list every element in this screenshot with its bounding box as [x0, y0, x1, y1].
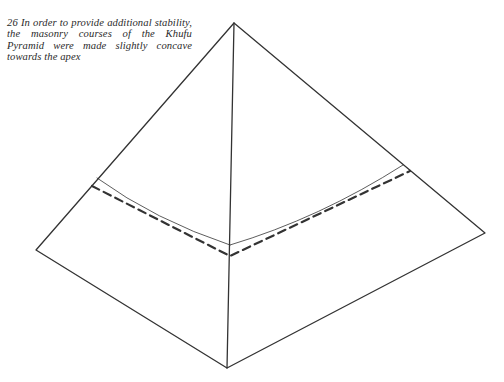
concave-course-right	[230, 165, 403, 245]
straight-course-dashed	[92, 171, 410, 256]
concave-course-left	[97, 178, 230, 245]
pyramid-diagram	[0, 0, 504, 382]
front-edge	[227, 23, 234, 368]
pyramid-outline	[36, 23, 485, 368]
